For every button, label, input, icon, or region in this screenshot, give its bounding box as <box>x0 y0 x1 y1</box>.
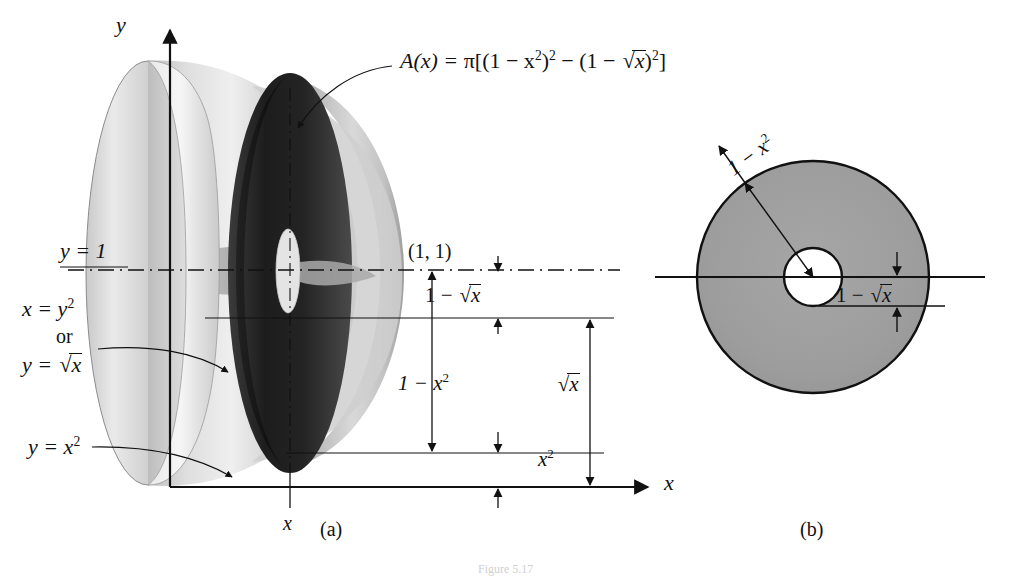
y-axis-label: y <box>116 12 126 38</box>
label-y-equals-x-squared: y = x2 <box>28 434 80 460</box>
label-one-minus-x-squared: 1 − x2 <box>398 370 449 396</box>
area-formula-label: A(x) = π[(1 − x2)2 − (1 − √x)2] <box>400 48 666 74</box>
label-point-1-1: (1, 1) <box>408 240 451 263</box>
label-one-minus-sqrt-x: 1 − √x <box>425 283 480 308</box>
caption-panel-a: (a) <box>320 518 342 541</box>
label-y-equals-1: y = 1 <box>60 238 107 264</box>
label-y-equals-sqrt-x: y = √x <box>22 352 81 378</box>
label-x-equals-y-squared: x = y2 <box>22 296 74 322</box>
x-axis-label: x <box>664 470 674 496</box>
x-tick-label: x <box>283 512 292 535</box>
label-inner-gap: 1 − √x <box>836 283 891 308</box>
label-sqrt-x: √x <box>556 372 579 397</box>
label-or: or <box>56 325 73 348</box>
cross-section-hole <box>276 229 300 313</box>
caption-panel-b: (b) <box>800 518 823 541</box>
label-x-squared: x2 <box>538 446 554 472</box>
figure-number: Figure 5.17 <box>478 562 533 577</box>
